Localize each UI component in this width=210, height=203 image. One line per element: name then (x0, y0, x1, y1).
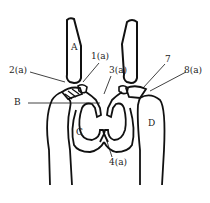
leader-3a (104, 76, 111, 94)
region-right-medial (104, 92, 126, 142)
label-a: A (71, 43, 78, 52)
label-1a: 1(a) (91, 52, 109, 61)
left-lower-bone-inner (68, 99, 72, 185)
region-c (79, 92, 104, 142)
label-d: D (148, 119, 155, 128)
label-4a: 4(a) (109, 158, 127, 167)
bone-d-inner (138, 98, 140, 185)
label-b: B (14, 98, 21, 107)
leader-2a (30, 72, 65, 82)
leader-1a (83, 63, 99, 82)
label-8a: 8(a) (184, 66, 202, 75)
left-small-piece (78, 85, 87, 93)
label-2a: 2(a) (9, 66, 27, 75)
left-lower-bone (47, 92, 62, 185)
label-7: 7 (165, 55, 171, 64)
label-c: C (76, 128, 83, 137)
bone-d (140, 95, 165, 185)
label-3a: 3(a) (109, 66, 127, 75)
joint-diagram: A 1(a) 2(a) 3(a) 7 8(a) B C D 4(a) (0, 0, 210, 203)
diagram-drawing (0, 0, 210, 203)
